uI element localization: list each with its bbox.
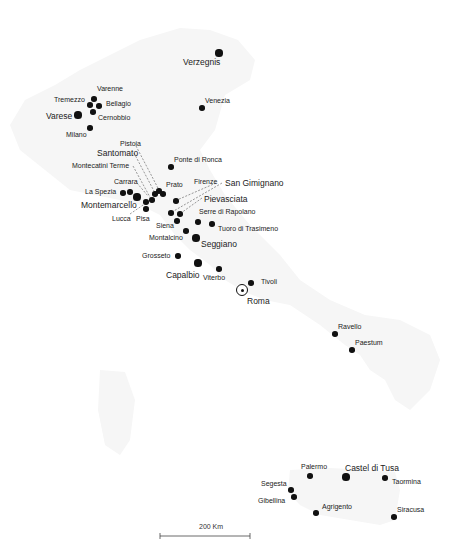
place-label-ravello: Ravello (338, 323, 361, 331)
place-label-viterbo: Viterbo (203, 274, 225, 282)
place-label-san-gimignano: San Gimignano (225, 178, 284, 188)
place-marker-capalbio (194, 259, 201, 266)
place-marker-taormina (382, 475, 388, 481)
place-label-ponte-di-ronca: Ponte di Ronca (174, 156, 222, 164)
place-marker-segesta (288, 487, 294, 493)
place-label-gibellina: Gibellina (258, 497, 285, 505)
place-marker-castel-di-tusa (342, 473, 349, 480)
place-marker-milano (87, 125, 93, 131)
place-marker-serre-di-rapolano (195, 219, 201, 225)
place-marker-grosseto (175, 253, 181, 259)
place-marker-seggiano (192, 234, 199, 241)
place-marker-carrara (127, 189, 133, 195)
place-label-pievasciata: Pievasciata (204, 194, 247, 204)
place-marker-cernobbio (90, 109, 96, 115)
place-label-pistoia: Pistoia (120, 140, 141, 148)
place-label-grosseto: Grosseto (142, 252, 170, 260)
place-label-venezia: Venezia (205, 97, 230, 105)
place-label-agrigento: Agrigento (322, 503, 352, 511)
place-marker-santomato (152, 191, 158, 197)
place-label-verzegnis: Verzegnis (183, 57, 220, 67)
place-marker-la-spezia (120, 190, 126, 196)
place-label-montemarcello: Montemarcello (81, 200, 137, 210)
place-label-seggiano: Seggiano (201, 239, 237, 249)
place-label-prato: Prato (166, 181, 183, 189)
place-marker-prato (160, 191, 166, 197)
place-marker-tremezzo (87, 102, 93, 108)
scale-bar (160, 533, 250, 539)
place-label-tremezzo: Tremezzo (54, 96, 85, 104)
place-label-taormina: Taormina (392, 478, 421, 486)
place-label-carrara: Carrara (114, 178, 138, 186)
place-marker-siena (174, 218, 180, 224)
place-marker-san-gimignano (168, 210, 174, 216)
place-marker-montalcino (183, 228, 189, 234)
place-marker-venezia (199, 105, 205, 111)
place-marker-verzegnis (215, 49, 222, 56)
place-label-roma: Roma (247, 296, 270, 306)
place-label-tivoli: Tivoli (261, 278, 277, 286)
place-label-siena: Siena (156, 222, 174, 230)
place-label-bellagio: Bellagio (106, 100, 131, 108)
place-marker-bellagio (96, 103, 102, 109)
place-label-serre-di-rapolano: Serre di Rapolano (199, 208, 255, 216)
place-label-lucca: Lucca (112, 215, 131, 223)
scale-bar-label: 200 Km (199, 523, 223, 530)
place-label-montecatini-terme: Montecatini Terme (72, 162, 129, 170)
place-label-la-spezia: La Spezia (85, 188, 116, 196)
place-label-palermo: Palermo (301, 463, 327, 471)
place-label-segesta: Segesta (261, 480, 287, 488)
place-marker-montecatini-terme (149, 197, 155, 203)
place-label-varese: Varese (46, 111, 72, 121)
place-marker-palermo (307, 473, 313, 479)
place-label-varenne: Varenne (97, 85, 123, 93)
place-marker-agrigento (313, 510, 319, 516)
place-marker-tuoro-di-trasimeno (209, 221, 215, 227)
capital-marker-roma (236, 284, 248, 296)
place-label-paestum: Paestum (355, 339, 383, 347)
place-label-capalbio: Capalbio (166, 270, 200, 280)
place-marker-pievasciata (177, 211, 183, 217)
place-marker-varenne (91, 96, 97, 102)
place-marker-siracusa (391, 514, 397, 520)
place-label-tuoro-di-trasimeno: Tuoro di Trasimeno (218, 225, 278, 233)
place-label-santomato: Santomato (97, 148, 138, 158)
place-marker-lucca (143, 199, 149, 205)
place-label-castel-di-tusa: Castel di Tusa (345, 463, 399, 473)
place-marker-paestum (349, 347, 355, 353)
place-label-pisa: Pisa (136, 215, 150, 223)
place-marker-ravello (332, 331, 338, 337)
place-label-montalcino: Montalcino (149, 234, 183, 242)
place-marker-viterbo (216, 266, 222, 272)
place-label-siracusa: Siracusa (397, 506, 424, 514)
place-label-cernobbio: Cernobbio (98, 114, 130, 122)
place-marker-firenze (173, 198, 179, 204)
place-marker-gibellina (291, 494, 297, 500)
place-marker-ponte-di-ronca (168, 164, 174, 170)
place-marker-tivoli (248, 280, 254, 286)
place-marker-varese (74, 111, 81, 118)
place-marker-pisa (143, 206, 149, 212)
place-label-milano: Milano (66, 131, 87, 139)
place-label-firenze: Firenze (194, 178, 217, 186)
